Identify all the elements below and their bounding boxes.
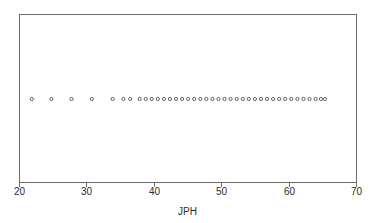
x-tick-label-30: 30 — [81, 186, 93, 197]
chart-background — [0, 0, 373, 223]
dot-plot-svg: 203040506070 JPH — [0, 0, 373, 223]
x-tick-label-20: 20 — [14, 186, 26, 197]
x-axis-title: JPH — [178, 206, 197, 217]
x-tick-label-70: 70 — [351, 186, 363, 197]
x-tick-label-50: 50 — [216, 186, 228, 197]
x-tick-label-60: 60 — [284, 186, 296, 197]
x-tick-label-40: 40 — [149, 186, 161, 197]
chart-container: 203040506070 JPH — [0, 0, 373, 223]
